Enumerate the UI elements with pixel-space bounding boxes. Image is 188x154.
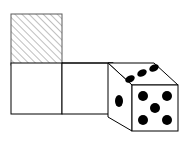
cube-net-die-figure: Cube net with shaded square and a die pa… [0,0,188,154]
pip-front-bottom-right [162,115,172,125]
net-square-bottom-middle [62,63,113,114]
net-square-shaded [11,14,62,65]
pip-front-top-left [138,91,148,101]
net-square-bottom-left [11,63,62,114]
pip-front-center [150,103,160,113]
die-left-face-pips [115,95,123,107]
pip-front-bottom-left [138,115,148,125]
pip-front-top-right [162,91,172,101]
cube-net-group [11,14,113,114]
pip-left-1 [115,95,123,107]
die-group [108,63,178,131]
figure-canvas [0,0,188,154]
